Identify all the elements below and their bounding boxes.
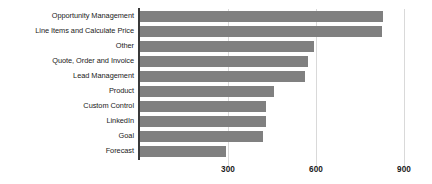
bar[interactable] (140, 116, 266, 127)
category-label: Opportunity Management (0, 10, 134, 21)
bar-row[interactable] (140, 114, 404, 129)
x-tick-label: 600 (296, 164, 336, 175)
category-label: Forecast (0, 145, 134, 156)
bar[interactable] (140, 146, 226, 157)
bar[interactable] (140, 11, 383, 22)
bar-row[interactable] (140, 9, 404, 24)
bar-row[interactable] (140, 39, 404, 54)
bar[interactable] (140, 26, 382, 37)
bar-chart: Opportunity ManagementLine Items and Cal… (0, 0, 432, 184)
category-label: Goal (0, 130, 134, 141)
x-tick-label: 900 (384, 164, 424, 175)
bar[interactable] (140, 101, 266, 112)
bar-row[interactable] (140, 99, 404, 114)
bar[interactable] (140, 71, 305, 82)
bar-row[interactable] (140, 144, 404, 159)
x-tick-label: 300 (208, 164, 248, 175)
bar[interactable] (140, 131, 263, 142)
category-label: Lead Management (0, 70, 134, 81)
bar[interactable] (140, 41, 314, 52)
category-label: Quote, Order and Invoice (0, 55, 134, 66)
x-axis-tick-labels: 300600900 (0, 164, 432, 178)
bar[interactable] (140, 56, 308, 67)
category-label: LinkedIn (0, 115, 134, 126)
category-label: Product (0, 85, 134, 96)
bar-row[interactable] (140, 129, 404, 144)
bar-row[interactable] (140, 84, 404, 99)
category-label: Custom Control (0, 100, 134, 111)
category-axis-labels: Opportunity ManagementLine Items and Cal… (0, 9, 134, 159)
bar-row[interactable] (140, 54, 404, 69)
gridline-900 (404, 9, 405, 166)
plot-area (140, 9, 404, 159)
category-label: Other (0, 40, 134, 51)
bar-row[interactable] (140, 24, 404, 39)
bar[interactable] (140, 86, 274, 97)
category-label: Line Items and Calculate Price (0, 25, 134, 36)
bar-row[interactable] (140, 69, 404, 84)
